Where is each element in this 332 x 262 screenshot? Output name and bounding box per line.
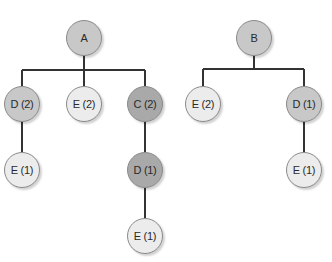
node-b: B [236,20,272,56]
node-b-d1-e1: E (1) [286,152,322,188]
node-label: D (1) [293,98,316,110]
node-a-e2: E (2) [66,86,102,122]
node-a: A [66,20,102,56]
node-a-c2-d1: D (1) [127,152,163,188]
node-label: C (2) [134,98,157,110]
node-label: E (2) [192,98,214,110]
node-a-c2-d1-e1: E (1) [127,218,163,254]
node-label: D (1) [134,164,157,176]
node-b-e2: E (2) [185,86,221,122]
node-a-d2-e1: E (1) [4,152,40,188]
node-a-c2: C (2) [127,86,163,122]
node-label: B [250,32,257,44]
node-b-d1: D (1) [286,86,322,122]
node-label: E (1) [293,164,315,176]
node-label: E (1) [11,164,33,176]
tree-diagram: A D (2) E (2) C (2) E (1) D (1) E (1) B … [0,0,332,262]
node-label: E (2) [73,98,95,110]
edge-a-bus [22,56,145,86]
edge-b-bus [203,56,304,86]
node-label: A [80,32,87,44]
node-label: E (1) [134,230,156,242]
edges-layer [0,0,332,262]
node-label: D (2) [11,98,34,110]
node-a-d2: D (2) [4,86,40,122]
